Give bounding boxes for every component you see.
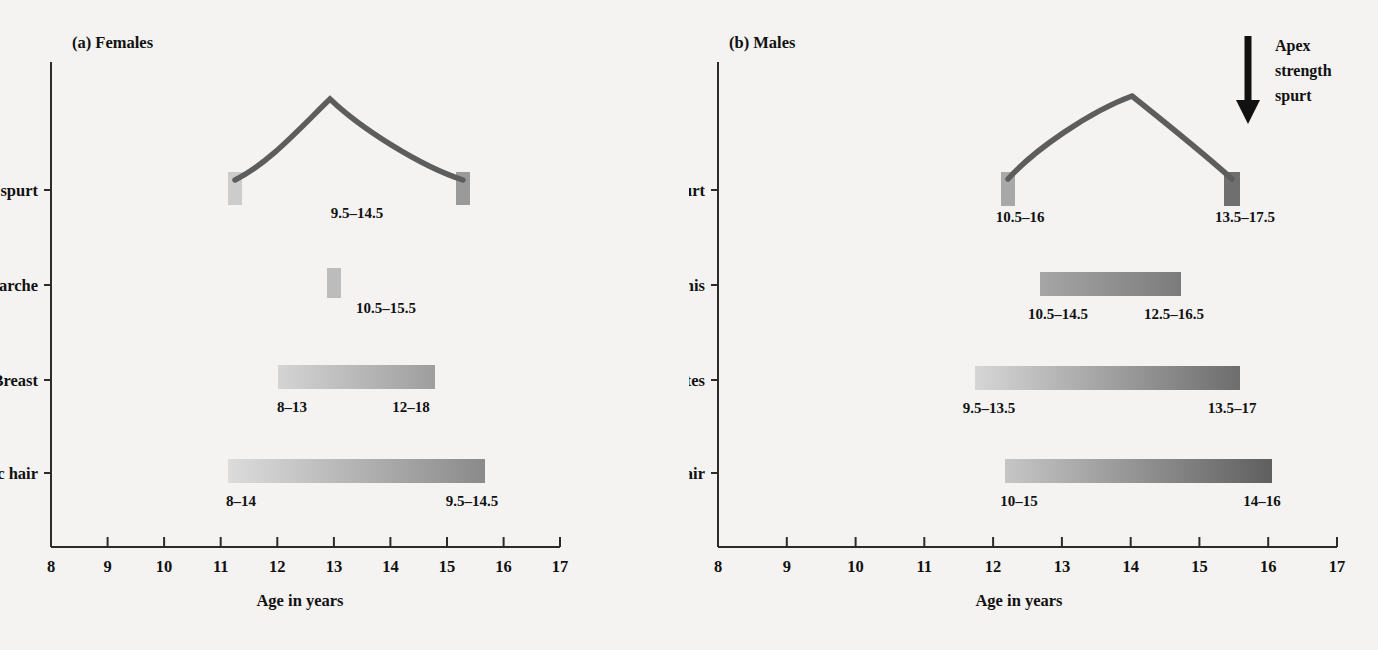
row-label-height-spurt-males: Height spurt (689, 181, 705, 200)
value-label-pubic-hair-end: 9.5–14.5 (446, 493, 499, 509)
x-tick-label-males-9: 9 (783, 557, 791, 576)
x-tick-label-10: 10 (156, 557, 173, 576)
testes-bar (975, 366, 1240, 390)
x-ticks-males (718, 537, 1337, 547)
panel-females: (a) Females Height spurt Menarche Breast… (0, 0, 689, 650)
apex-strength-spurt-annotation: Apex strength spurt (1236, 36, 1332, 124)
x-axis-title-males: Age in years (975, 591, 1063, 610)
x-tick-label-males-15: 15 (1191, 557, 1208, 576)
menarche-block (327, 268, 341, 298)
value-label-pubic-hair-end-males: 14–16 (1243, 493, 1281, 509)
pubic-hair-bar (228, 459, 485, 483)
x-tick-label-9: 9 (103, 557, 111, 576)
value-label-height-spurt-end-males: 13.5–17.5 (1215, 209, 1275, 225)
height-spurt-path (235, 99, 463, 180)
x-ticks-females (51, 537, 560, 547)
row-label-menarche: Menarche (0, 276, 38, 295)
females-chart-svg: (a) Females Height spurt Menarche Breast… (0, 0, 689, 650)
x-tick-label-8: 8 (47, 557, 55, 576)
x-tick-label-13: 13 (326, 557, 343, 576)
value-label-pubic-hair-start: 8–14 (226, 493, 257, 509)
x-tick-label-males-10: 10 (847, 557, 864, 576)
x-tick-label-males-12: 12 (985, 557, 1002, 576)
value-label-pubic-hair-start-males: 10–15 (1000, 493, 1038, 509)
figure-canvas: (a) Females Height spurt Menarche Breast… (0, 0, 1378, 650)
panel-males: (b) Males Height spurt Penis Testes Pubi… (689, 0, 1378, 650)
row-label-pubic-hair: Pubic hair (0, 464, 38, 483)
annotation-line-3: spurt (1275, 87, 1312, 105)
row-label-penis: Penis (689, 276, 706, 295)
x-tick-label-males-13: 13 (1054, 557, 1071, 576)
height-spurt-curve-females (228, 99, 470, 205)
x-tick-label-males-14: 14 (1122, 557, 1139, 576)
x-tick-label-17: 17 (552, 557, 569, 576)
row-label-breast: Breast (0, 371, 38, 390)
x-tick-label-16: 16 (495, 557, 512, 576)
x-tick-label-14: 14 (382, 557, 399, 576)
pubic-hair-bar-males (1005, 459, 1272, 483)
value-label-height-spurt-start-males: 10.5–16 (996, 209, 1045, 225)
value-label-penis-start: 10.5–14.5 (1028, 306, 1088, 322)
x-axis-title-females: Age in years (256, 591, 344, 610)
x-tick-label-males-8: 8 (714, 557, 722, 576)
down-arrow-icon (1236, 36, 1260, 124)
annotation-line-1: Apex (1275, 37, 1311, 55)
panel-title-females: (a) Females (72, 33, 154, 52)
value-label-testes-start: 9.5–13.5 (963, 400, 1016, 416)
value-label-penis-end: 12.5–16.5 (1144, 306, 1204, 322)
x-tick-label-males-11: 11 (917, 557, 933, 576)
value-label-breast-end: 12–18 (392, 399, 430, 415)
x-tick-label-males-16: 16 (1260, 557, 1277, 576)
row-label-height-spurt: Height spurt (0, 181, 38, 200)
value-label-testes-end: 13.5–17 (1208, 400, 1257, 416)
row-label-pubic-hair-males: Pubic hair (689, 464, 705, 483)
breast-bar (278, 365, 435, 389)
x-tick-label-15: 15 (439, 557, 456, 576)
x-tick-label-12: 12 (269, 557, 286, 576)
value-label-menarche: 10.5–15.5 (356, 300, 416, 316)
value-label-breast-start: 8–13 (277, 399, 307, 415)
annotation-line-2: strength (1275, 62, 1332, 80)
height-spurt-path-males (1008, 96, 1232, 179)
penis-bar (1040, 272, 1181, 296)
height-spurt-curve-males (1001, 96, 1240, 206)
x-tick-label-11: 11 (213, 557, 229, 576)
value-label-height-spurt-center: 9.5–14.5 (331, 205, 384, 221)
panel-title-males: (b) Males (729, 33, 796, 52)
x-tick-label-males-17: 17 (1329, 557, 1346, 576)
males-chart-svg: (b) Males Height spurt Penis Testes Pubi… (689, 0, 1378, 650)
row-label-testes: Testes (689, 371, 706, 390)
